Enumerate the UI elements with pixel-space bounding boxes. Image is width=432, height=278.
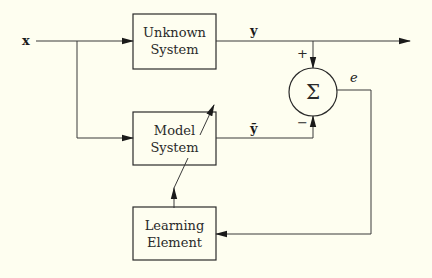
model-output-signal-label: ỹ	[249, 121, 258, 136]
unknown-system-block: Unknown System	[133, 14, 216, 69]
plus-sign: +	[297, 46, 308, 61]
block-diagram: x Unknown System y + Σ − e Model System …	[0, 0, 432, 278]
adaptation-arrow-lower	[174, 158, 188, 188]
learning-element-label-line1: Learning	[145, 218, 205, 233]
output-signal-label: y	[249, 23, 258, 38]
sigma-symbol: Σ	[306, 80, 320, 104]
unknown-system-label-line2: System	[150, 42, 198, 57]
minus-sign: −	[297, 115, 308, 130]
model-system-label-line1: Model	[154, 123, 195, 138]
unknown-system-label-line1: Unknown	[143, 25, 207, 40]
input-signal-label: x	[22, 33, 30, 48]
learning-element-block: Learning Element	[133, 207, 216, 260]
input-to-model-wire	[77, 41, 133, 138]
model-system-label-line2: System	[150, 140, 198, 155]
learning-element-label-line2: Element	[147, 235, 203, 250]
adaptation-arrow-upper	[200, 105, 214, 135]
error-to-learning-wire	[216, 90, 371, 234]
summing-junction: Σ	[289, 68, 337, 116]
error-signal-label: e	[350, 70, 358, 85]
model-system-block: Model System	[133, 112, 216, 165]
